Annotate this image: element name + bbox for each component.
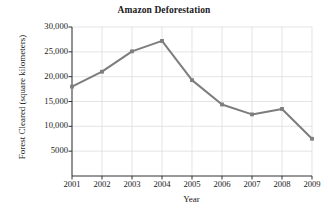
data-point-marker xyxy=(100,70,104,74)
axes xyxy=(69,27,313,180)
line-chart-plot xyxy=(0,0,328,214)
chart-container: Amazon Deforestation Forest Cleared (squ… xyxy=(0,0,328,214)
data-point-marker xyxy=(160,39,164,43)
data-point-marker xyxy=(280,107,284,111)
grid-lines xyxy=(72,27,312,176)
data-point-marker xyxy=(220,103,224,107)
data-point-marker xyxy=(130,49,134,53)
data-point-marker xyxy=(70,85,74,89)
data-point-marker xyxy=(190,78,194,82)
data-point-marker xyxy=(310,137,314,141)
data-point-marker xyxy=(250,113,254,117)
